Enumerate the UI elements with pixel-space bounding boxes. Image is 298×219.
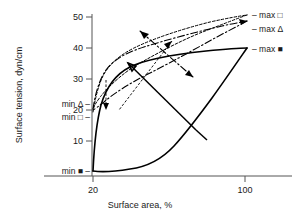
arrow-solid-up-shaft (128, 63, 196, 130)
x-tick-label-20: 20 (88, 185, 98, 195)
tie-vertical-min-head (103, 103, 109, 110)
x-tick-labels: 20 100 (88, 185, 253, 195)
label-min-square-open: min □ – (62, 112, 91, 122)
x-tick-label-100: 100 (237, 185, 252, 195)
y-tick-label-10: 10 (73, 136, 83, 146)
legend: – max □ – max Δ – max ■ (252, 10, 284, 54)
label-min-triangle: min Δ – (62, 99, 91, 109)
legend-item-max-square-open: – max □ (252, 10, 283, 20)
axis-group (44, 14, 292, 182)
curve-max-square-filled-lower (93, 48, 247, 172)
arrow-solid-down-shaft (196, 130, 207, 140)
y-axis-title: Surface tension, dyn/cm (14, 47, 24, 144)
y-tick-label-40: 40 (73, 43, 83, 53)
y-tick-label-30: 30 (73, 74, 83, 84)
legend-item-max-square-filled: – max ■ (252, 44, 283, 54)
arrow-dotted-head (164, 41, 172, 49)
series-max-square-filled (93, 48, 247, 172)
curve-max-triangle-upper (93, 21, 247, 109)
series-max-triangle (93, 21, 247, 110)
chart-canvas: 50 40 30 20 10 20 100 Surface tension, d… (0, 0, 298, 219)
label-min-square-filled: min ■ – (62, 166, 91, 176)
curve-max-square-filled-upper (93, 48, 247, 171)
curve-max-triangle-lower (93, 21, 247, 110)
y-tick-label-50: 50 (73, 12, 83, 22)
x-axis-title: Surface area, % (108, 200, 173, 210)
series-max-square-open (93, 15, 247, 112)
legend-item-max-triangle: – max Δ (252, 24, 284, 34)
y-tick-labels: 50 40 30 20 10 (73, 12, 83, 146)
chart-figure: 50 40 30 20 10 20 100 Surface tension, d… (0, 0, 298, 219)
curve-max-square-open-upper (93, 15, 247, 112)
